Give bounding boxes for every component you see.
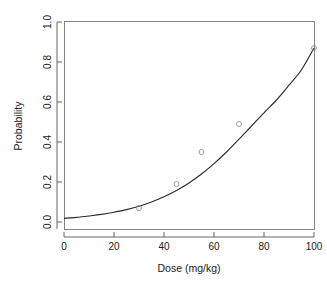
x-tick-label: 40 [158,241,170,252]
x-tick-label: 60 [208,241,220,252]
y-tick-label: 0.0 [42,215,53,229]
y-tick-label: 0.4 [42,135,53,149]
x-tick-label: 100 [306,241,323,252]
y-tick-label: 0.8 [42,55,53,69]
x-tick-label: 80 [258,241,270,252]
y-tick-label: 0.2 [42,175,53,189]
y-tick-label: 0.6 [42,95,53,109]
y-axis-title: Probability [12,101,24,151]
dose-response-plot: 1.0 0.8 0.6 0.4 0.2 0.0 0 20 40 60 80 10… [0,0,327,291]
plot-canvas: 1.0 0.8 0.6 0.4 0.2 0.0 0 20 40 60 80 10… [0,0,327,291]
x-tick-label: 20 [108,241,120,252]
y-tick-label: 1.0 [42,15,53,29]
x-axis-title: Dose (mg/kg) [157,262,220,274]
x-tick-label: 0 [61,241,67,252]
